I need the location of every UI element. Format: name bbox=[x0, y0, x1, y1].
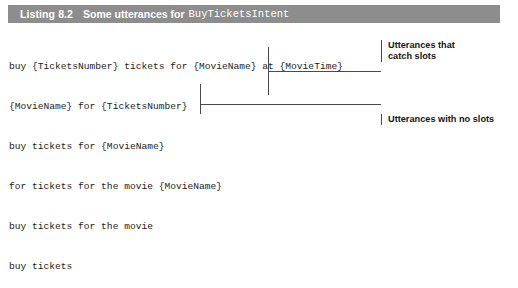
listing-code-token: BuyTicketsIntent bbox=[189, 8, 290, 20]
leader-horizontal-segment bbox=[268, 71, 381, 72]
annotation-no-slots: Utterances with no slots bbox=[381, 114, 518, 125]
listing-figure: Listing 8.2 Some utterances for BuyTicke… bbox=[0, 0, 518, 288]
listing-title: Some utterances for bbox=[83, 8, 185, 20]
annotation-line: Utterances that bbox=[388, 40, 508, 51]
annotation-line: catch slots bbox=[388, 51, 508, 62]
leader-horizontal-segment bbox=[200, 104, 381, 105]
code-line: {MovieName} for {TicketsNumber} bbox=[9, 100, 509, 113]
code-line: buy tickets for {MovieName} bbox=[9, 140, 509, 153]
listing-number: Listing 8.2 bbox=[20, 8, 73, 20]
listing-header-bar: Listing 8.2 Some utterances for BuyTicke… bbox=[8, 5, 500, 23]
leader-vertical-segment bbox=[200, 84, 201, 114]
code-line: buy tickets bbox=[9, 260, 509, 273]
annotation-line: Utterances with no slots bbox=[388, 114, 518, 125]
annotation-catch-slots: Utterances that catch slots bbox=[381, 40, 508, 62]
code-line: for tickets for the movie {MovieName} bbox=[9, 180, 509, 193]
code-listing-body: buy {TicketsNumber} tickets for {MovieNa… bbox=[9, 33, 509, 288]
code-line: buy tickets for the movie bbox=[9, 220, 509, 233]
